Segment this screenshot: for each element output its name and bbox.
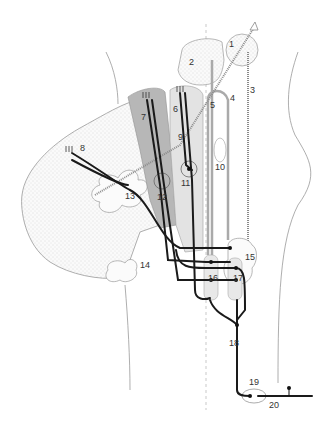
label-11: 11 — [181, 178, 190, 188]
synapse-dot — [187, 167, 191, 171]
label-19: 19 — [249, 377, 259, 387]
label-4: 4 — [230, 93, 235, 103]
label-17: 17 — [233, 273, 243, 283]
synapse-dot — [248, 394, 252, 398]
synapse-dot — [209, 260, 213, 264]
label-18: 18 — [229, 338, 239, 348]
synapse-dot — [228, 246, 232, 250]
label-10: 10 — [215, 162, 225, 172]
label-8: 8 — [80, 143, 85, 153]
arrow-up-icon — [250, 22, 258, 30]
label-16: 16 — [208, 273, 218, 283]
right-body-outline — [278, 52, 311, 383]
stippled-region-2 — [178, 39, 224, 85]
label-9: 9 — [178, 132, 183, 142]
synapse-dot — [234, 266, 238, 270]
lobed-structure-lower — [106, 259, 137, 281]
label-15: 15 — [245, 252, 255, 262]
synapse-dot — [287, 386, 291, 390]
label-5: 5 — [210, 100, 215, 110]
label-12: 12 — [157, 192, 167, 202]
synapse-dot — [235, 323, 239, 327]
label-3: 3 — [250, 85, 255, 95]
label-14: 14 — [140, 260, 150, 270]
label-6: 6 — [173, 104, 178, 114]
label-20: 20 — [269, 400, 279, 410]
nerve-16-out — [210, 300, 237, 325]
label-13: 13 — [125, 191, 135, 201]
neural-pathway-diagram: 1 2 3 4 5 6 7 8 9 10 11 12 13 14 15 16 1… — [0, 0, 335, 434]
label-2: 2 — [189, 57, 194, 67]
oval-10 — [214, 138, 226, 162]
label-1: 1 — [229, 39, 234, 49]
label-7: 7 — [141, 112, 146, 122]
